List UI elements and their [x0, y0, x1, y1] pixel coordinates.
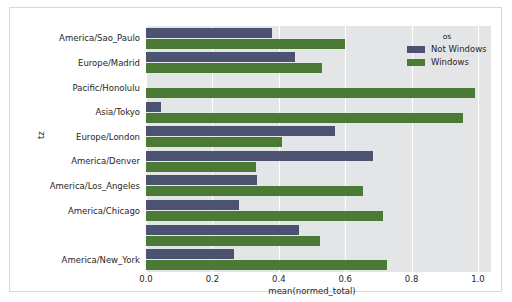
y-tick-label: Pacific/Honolulu	[72, 83, 140, 93]
legend-title: os	[411, 32, 483, 41]
x-tick-label: 0.2	[206, 274, 220, 284]
legend-item[interactable]: Not Windows	[407, 43, 493, 55]
legend-swatch-icon	[407, 59, 425, 66]
y-tick-label: America/Sao_Paulo	[59, 33, 140, 43]
bar-row	[146, 75, 478, 100]
legend-item[interactable]: Windows	[407, 56, 493, 68]
bar-not-windows	[146, 200, 239, 210]
x-axis-title: mean(normed_total)	[146, 286, 478, 296]
legend-swatch-icon	[407, 46, 425, 53]
x-tick-label: 0.0	[139, 274, 153, 284]
legend-label: Windows	[431, 57, 469, 67]
bar-windows	[146, 88, 475, 98]
bar-row	[146, 149, 478, 174]
bar-row	[146, 100, 478, 125]
bar-not-windows	[146, 249, 234, 259]
y-tick-label: America/Los_Angeles	[50, 181, 140, 191]
y-tick-label: Europe/London	[76, 132, 140, 142]
bar-windows	[146, 137, 282, 147]
bar-not-windows	[146, 102, 161, 112]
y-tick-label: Europe/Madrid	[78, 58, 140, 68]
y-tick-label: Asia/Tokyo	[96, 107, 140, 117]
bar-windows	[146, 39, 345, 49]
bar-row	[146, 174, 478, 199]
x-tick-label: 0.6	[338, 274, 352, 284]
y-tick-label: America/Denver	[71, 156, 140, 166]
bar-row	[146, 124, 478, 149]
bar-not-windows	[146, 175, 257, 185]
bar-not-windows	[146, 52, 295, 62]
bar-not-windows	[146, 126, 335, 136]
legend: os Not WindowsWindows	[407, 32, 493, 69]
bar-windows	[146, 113, 463, 123]
x-tick-label: 0.4	[272, 274, 286, 284]
bar-windows	[146, 162, 256, 172]
bar-row	[146, 247, 478, 272]
y-tick-label: America/New_York	[62, 255, 140, 265]
y-axis-title: tz	[36, 131, 46, 139]
bar-not-windows	[146, 28, 272, 38]
y-axis-tick-labels: America/Sao_PauloEurope/MadridPacific/Ho…	[10, 26, 146, 272]
bar-windows	[146, 260, 387, 270]
bar-windows	[146, 211, 383, 221]
bar-row	[146, 223, 478, 248]
y-tick-label: America/Chicago	[68, 206, 140, 216]
x-tick-label: 1.0	[471, 274, 485, 284]
x-tick-label: 0.8	[405, 274, 419, 284]
legend-label: Not Windows	[431, 44, 487, 54]
legend-entries: Not WindowsWindows	[407, 43, 493, 68]
figure-frame: America/Sao_PauloEurope/MadridPacific/Ho…	[9, 7, 502, 292]
bar-not-windows	[146, 225, 299, 235]
bar-row	[146, 198, 478, 223]
bar-windows	[146, 63, 322, 73]
bar-not-windows	[146, 151, 373, 161]
bar-windows	[146, 236, 320, 246]
bar-windows	[146, 186, 363, 196]
